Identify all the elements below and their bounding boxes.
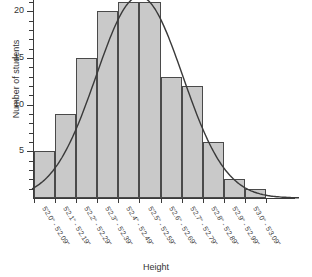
y-tick-major [27, 151, 33, 152]
y-tick-minor [29, 142, 33, 143]
y-tick-major [27, 58, 33, 59]
y-tick-minor [29, 114, 33, 115]
y-tick-minor [29, 2, 33, 3]
y-tick-minor [29, 67, 33, 68]
histogram-bar [55, 114, 76, 198]
histogram-bar [76, 58, 97, 198]
y-tick-minor [29, 30, 33, 31]
y-tick-minor [29, 161, 33, 162]
y-tick-minor [29, 86, 33, 87]
histogram-bar [139, 2, 160, 198]
y-tick-major [27, 105, 33, 106]
histogram-bar [182, 86, 203, 198]
x-axis-labels: 5'2.0" - 5'2.09"5'2.1" - 5'2.19"5'2.2" -… [0, 198, 312, 268]
y-tick-minor [29, 49, 33, 50]
y-tick-label: 5 [0, 145, 24, 155]
y-tick-minor [29, 170, 33, 171]
histogram-bar [245, 189, 266, 198]
histogram-bar [203, 142, 224, 198]
y-tick-minor [29, 123, 33, 124]
y-tick-label: 20 [0, 5, 24, 15]
y-tick-minor [29, 39, 33, 40]
histogram-chart: Number of students 5101520 5'2.0" - 5'2.… [0, 0, 312, 277]
y-tick-minor [29, 133, 33, 134]
y-axis-title: Number of students [11, 19, 21, 139]
histogram-bar [118, 2, 139, 198]
y-tick-label: 15 [0, 52, 24, 62]
y-tick-major [27, 11, 33, 12]
y-tick-minor [29, 95, 33, 96]
y-tick-minor [29, 77, 33, 78]
y-tick-minor [29, 21, 33, 22]
x-axis-title: Height [0, 262, 312, 272]
y-tick-minor [29, 189, 33, 190]
histogram-bar [97, 11, 118, 198]
bars-layer [34, 0, 296, 198]
histogram-bar [224, 179, 245, 198]
y-tick-label: 10 [0, 99, 24, 109]
y-tick-minor [29, 179, 33, 180]
histogram-bar [161, 77, 182, 198]
histogram-bar [34, 151, 55, 198]
